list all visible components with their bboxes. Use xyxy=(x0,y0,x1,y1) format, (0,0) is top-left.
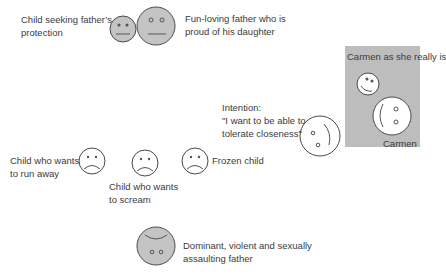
label-child-run-away: Child who wants to run away xyxy=(10,154,79,180)
face-intention-icon xyxy=(300,116,340,156)
label-carmen: Carmen xyxy=(383,137,417,150)
label-child-seeking-protection: Child seeking father’s protection xyxy=(21,13,112,39)
label-dominant-father: Dominant, violent and sexually assaultin… xyxy=(183,239,312,265)
label-carmen-real-self: Carmen as she really is xyxy=(347,50,446,63)
face-dominant-father-icon xyxy=(137,227,175,265)
face-carmen-real-self-icon xyxy=(357,73,379,95)
label-intention: Intention: "I want to be able to tolerat… xyxy=(222,101,306,140)
face-child-seeking-protection-icon xyxy=(110,16,136,42)
face-carmen-icon xyxy=(373,97,411,135)
face-fun-loving-father-icon xyxy=(137,7,175,45)
label-frozen-child: Frozen child xyxy=(212,154,264,167)
label-fun-loving-father: Fun-loving father who is proud of his da… xyxy=(185,12,286,38)
face-child-run-away-icon xyxy=(79,148,105,174)
label-child-scream: Child who wants to scream xyxy=(109,180,178,206)
face-child-scream-icon xyxy=(132,150,158,176)
face-frozen-child-icon xyxy=(182,148,208,174)
